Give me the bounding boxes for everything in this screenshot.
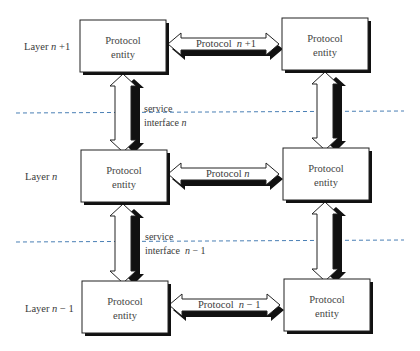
interface-boundary-line (16, 240, 404, 242)
layer-label-suffix: − 1 (60, 303, 74, 314)
entity-line1: Protocol (82, 295, 168, 309)
protocol-label-var: n (244, 168, 249, 179)
protocol-entity-label: Protocol entity (282, 32, 368, 59)
interface-label: interface n (144, 116, 186, 130)
protocol-label-n-minus-1: Protocol n − 1 (198, 300, 261, 311)
layer-label-n: Layer n (25, 172, 57, 183)
protocol-label-prefix: Protocol (206, 168, 242, 179)
layer-label-var: n (51, 41, 56, 52)
entity-line2: entity (282, 46, 368, 60)
interface-label-var: n (181, 117, 186, 128)
service-label: service (144, 102, 186, 116)
service-interface-label-n-minus-1: service interface n − 1 (145, 230, 206, 257)
entity-line1: Protocol (81, 164, 167, 178)
layer-label-n-plus-1: Layer n +1 (24, 42, 70, 53)
protocol-label-suffix: − 1 (247, 299, 261, 310)
interface-label-var: n (185, 245, 190, 256)
layer-label-prefix: Layer (25, 171, 49, 182)
layer-label-suffix: +1 (59, 41, 70, 52)
entity-line2: entity (82, 309, 168, 323)
entity-line2: entity (81, 178, 167, 192)
protocol-label-prefix: Protocol (198, 299, 234, 310)
layer-label-n-minus-1: Layer n − 1 (25, 304, 74, 315)
interface-label-prefix: interface (145, 245, 180, 256)
entity-line2: entity (80, 48, 166, 62)
protocol-entity-label: Protocol entity (80, 34, 166, 61)
service-arrow-left-upper (110, 74, 144, 153)
entity-line2: entity (283, 176, 369, 190)
layer-label-prefix: Layer (24, 41, 48, 52)
service-arrow-right-upper (312, 72, 346, 151)
protocol-label-n: Protocol n (206, 169, 249, 180)
service-arrow-right-lower (312, 202, 346, 282)
layer-label-var: n (52, 171, 57, 182)
protocol-label-suffix: +1 (245, 38, 256, 49)
protocol-label-n-plus-1: Protocol n +1 (196, 39, 256, 50)
protocol-label-var: n (237, 38, 242, 49)
protocol-entity-label: Protocol entity (82, 295, 168, 322)
entity-line1: Protocol (283, 162, 369, 176)
protocol-entity-label: Protocol entity (284, 293, 370, 320)
entity-line1: Protocol (284, 293, 370, 307)
entity-line1: Protocol (282, 32, 368, 46)
protocol-label-var: n (239, 299, 244, 310)
layer-label-prefix: Layer (25, 303, 49, 314)
protocol-entity-label: Protocol entity (283, 162, 369, 189)
service-interface-label-n: service interface n (144, 102, 186, 129)
entity-line1: Protocol (80, 34, 166, 48)
entity-line2: entity (284, 307, 370, 321)
protocol-entity-label: Protocol entity (81, 164, 167, 191)
interface-label: interface n − 1 (145, 244, 206, 258)
service-arrow-left-lower (110, 204, 144, 284)
service-label: service (145, 230, 206, 244)
interface-label-prefix: interface (144, 117, 179, 128)
layer-label-var: n (52, 303, 57, 314)
interface-label-suffix: − 1 (192, 245, 205, 256)
protocol-label-prefix: Protocol (196, 38, 232, 49)
interface-boundary-line (16, 111, 404, 113)
